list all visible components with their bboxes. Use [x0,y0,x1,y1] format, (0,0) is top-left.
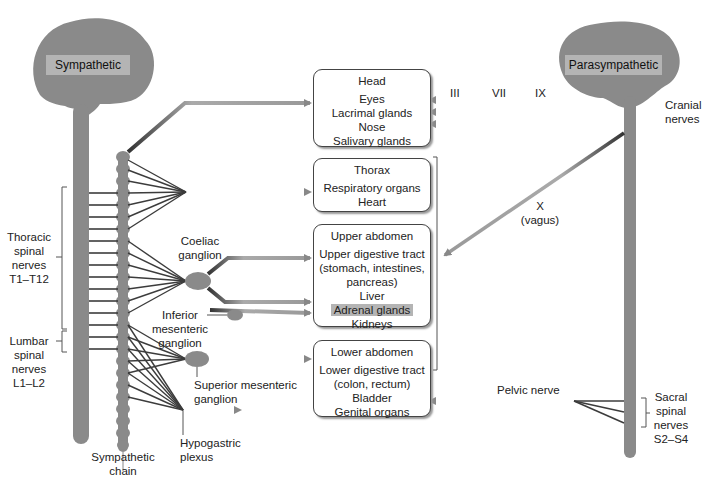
box-item: Bladder [314,391,430,405]
box-item: (colon, rectum) [314,377,430,391]
box-title: Upper abdomen [314,229,430,243]
box-item: Heart [314,195,430,209]
box-title: Lower abdomen [314,345,430,359]
thoracic-spinal-nerves-label: Thoracicspinal nervesT1–T12 [4,230,54,286]
cranial-nerves-label: Cranialnerves [665,98,701,126]
box-title: Head [314,74,430,88]
autonomic-nervous-system-diagram: Sympathetic Parasympathetic Head Eyes La… [0,0,713,489]
inferior-mesenteric-ganglion-icon [227,310,243,321]
box-item: Lower digestive tract [314,363,430,377]
inferior-mesenteric-ganglion-label: Inferiormesentericganglion [150,308,210,350]
superior-mesenteric-ganglion-label: Superior mesentericganglion [194,378,297,406]
box-item: Upper digestive tract [314,247,430,261]
sympathetic-label: Sympathetic [46,55,130,75]
sympathetic-chain-label: Sympatheticchain [88,450,158,478]
box-item: (stomach, intestines, [314,261,430,275]
coeliac-ganglion-label: Coeliacganglion [170,234,230,262]
cranial-nerve-VII: VII [492,86,506,100]
box-item: pancreas) [314,275,430,289]
highlighted-adrenal-glands: Adrenal glands [331,304,414,316]
box-title: Thorax [314,163,430,177]
organ-box-head: Head Eyes Lacrimal glands Nose Salivary … [313,69,431,147]
box-item: Respiratory organs [314,181,430,195]
box-item: Kidneys [314,317,430,331]
cranial-nerve-IX: IX [535,86,546,100]
cranial-nerve-III: III [450,86,460,100]
sympathetic-chain-icon [116,151,130,452]
box-item: Lacrimal glands [314,106,430,120]
box-item: Eyes [314,92,430,106]
parasympathetic-label: Parasympathetic [565,55,662,75]
box-item: Salivary glands [314,134,430,148]
hypogastric-plexus-label: Hypogastricplexus [180,436,241,464]
superior-mesenteric-ganglion-icon [185,351,209,367]
coeliac-ganglion-icon [185,272,211,290]
box-item: Genital organs [314,405,430,419]
organ-box-upper-abdomen: Upper abdomen Upper digestive tract (sto… [313,224,431,327]
organ-box-thorax: Thorax Respiratory organs Heart [313,158,431,212]
box-item: Liver [314,289,430,303]
lumbar-spinal-nerves-label: Lumbarspinal nervesL1–L2 [4,334,54,390]
organ-box-lower-abdomen: Lower abdomen Lower digestive tract (col… [313,340,431,417]
vagus-label: X(vagus) [515,199,565,227]
pelvic-nerve-label: Pelvic nerve [497,383,560,397]
sacral-spinal-nerves-label: Sacralspinal nervesS2–S4 [651,390,691,446]
box-item: Nose [314,120,430,134]
